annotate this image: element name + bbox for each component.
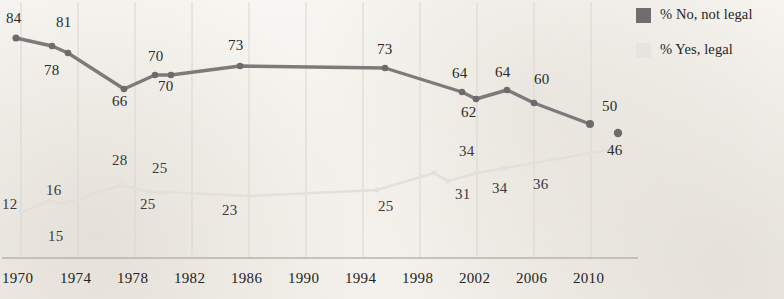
data-label-no: 73 — [228, 37, 243, 54]
series-no-not-legal — [12, 34, 622, 137]
data-label-no: 64 — [495, 64, 510, 81]
x-tick-label: 1990 — [288, 270, 319, 287]
data-label-yes: 25 — [378, 198, 393, 215]
data-label-no: 66 — [112, 93, 127, 110]
data-label-no: 84 — [6, 10, 21, 27]
data-label-yes: 31 — [455, 186, 470, 203]
data-label-yes: 36 — [533, 176, 548, 193]
x-tick-label: 1994 — [345, 270, 376, 287]
data-label-yes: 23 — [222, 202, 237, 219]
x-tick-label: 2010 — [573, 270, 604, 287]
x-tick-label: 1970 — [2, 270, 33, 287]
legend-label-no: % No, not legal — [660, 6, 753, 23]
x-tick-label: 1978 — [117, 270, 148, 287]
legend-label-yes: % Yes, legal — [660, 41, 733, 58]
data-label-no: 70 — [158, 78, 173, 95]
data-label-no: 62 — [461, 104, 476, 121]
x-tick-label: 1986 — [231, 270, 262, 287]
data-label-yes: 25 — [152, 160, 167, 177]
data-label-no: 81 — [56, 14, 71, 31]
data-label-no: 64 — [452, 65, 467, 82]
data-label-yes: 12 — [2, 196, 17, 213]
x-tick-label: 1974 — [60, 270, 91, 287]
data-label-no: 50 — [602, 98, 617, 115]
x-tick-label: 1982 — [174, 270, 205, 287]
series-yes-legal — [18, 148, 620, 215]
data-label-yes: 16 — [46, 182, 61, 199]
data-label-yes: 15 — [48, 228, 63, 245]
chart-page: 84 81 78 66 70 70 73 73 64 62 64 60 50 4… — [0, 0, 784, 299]
data-label-no: 46 — [607, 142, 622, 159]
x-tick-label: 2002 — [459, 270, 490, 287]
data-label-no: 78 — [44, 62, 59, 79]
data-label-yes: 28 — [112, 152, 127, 169]
data-label-yes: 34 — [492, 180, 507, 197]
data-label-no: 70 — [148, 48, 163, 65]
x-tick-label: 2006 — [516, 270, 547, 287]
chart-svg — [0, 0, 640, 299]
legend-item-yes[interactable]: % Yes, legal — [636, 41, 784, 58]
line-chart-plot: 84 81 78 66 70 70 73 73 64 62 64 60 50 4… — [0, 0, 640, 299]
x-tick-label: 1998 — [402, 270, 433, 287]
legend-swatch-yes-icon — [636, 43, 651, 58]
legend-swatch-no-icon — [636, 8, 651, 23]
legend-item-no[interactable]: % No, not legal — [636, 6, 784, 23]
data-label-no: 73 — [377, 41, 392, 58]
gridlines — [21, 2, 591, 258]
chart-legend: % No, not legal % Yes, legal — [636, 6, 784, 76]
data-label-yes: 25 — [140, 196, 155, 213]
data-label-yes: 34 — [459, 143, 474, 160]
data-label-no: 60 — [534, 71, 549, 88]
